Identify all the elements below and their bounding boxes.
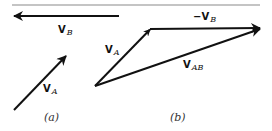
label-va-b: VA [105,45,120,57]
label-main: V [58,24,66,35]
label-sub: A [52,87,58,96]
label-sub: AB [192,63,204,72]
caption-a: (a) [44,112,59,123]
vector-neg-vb-arrow [150,28,260,29]
vector-vab-arrow [95,29,260,86]
label-main: V [183,59,191,70]
label-neg-vb-b: −VB [193,12,216,24]
label-sub: A [114,48,120,57]
caption-b: (b) [170,112,186,123]
label-main: −V [193,11,209,22]
label-sub: B [67,28,73,37]
label-va-a: VA [43,84,58,96]
label-main: V [105,44,113,55]
vector-va-arrow [14,56,66,110]
label-main: V [43,83,51,94]
label-vb-a: VB [58,25,73,37]
vector-diagram [0,0,272,131]
label-sub: B [210,15,216,24]
label-vab-b: VAB [183,60,203,72]
panel-b [95,28,260,86]
